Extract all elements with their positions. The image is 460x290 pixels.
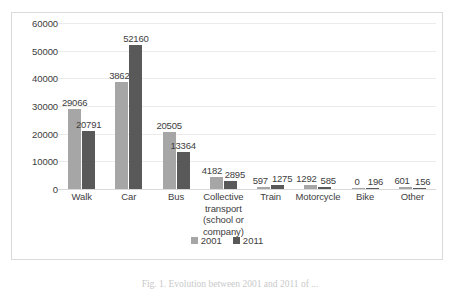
legend-label: 2011 (243, 235, 263, 246)
bar-2001-motorcycle[interactable]: 1292 (304, 185, 317, 189)
bar-value-label: 20791 (76, 119, 101, 130)
bar-2011-collective[interactable]: 2895 (224, 181, 237, 189)
bar-2001-collective[interactable]: 4182 (210, 177, 223, 189)
plot-area: 2906620791386225216020505133644182289559… (58, 23, 436, 189)
bar-group: 2050513364 (153, 23, 200, 189)
bar-value-label: 585 (321, 175, 336, 186)
y-axis-tick-label: 30000 (32, 101, 58, 112)
bar-value-label: 1292 (296, 173, 316, 184)
bar-group: 3862252160 (105, 23, 152, 189)
bar-group: 2906620791 (58, 23, 105, 189)
figure-caption: Fig. 1. Evolution between 2001 and 2011 … (0, 279, 460, 289)
chart-legend: 20012011 (12, 235, 442, 246)
bar-value-label: 0 (354, 176, 359, 187)
y-axis-tick-label: 40000 (32, 73, 58, 84)
bar-2011-train[interactable]: 1275 (271, 185, 284, 189)
bar-value-label: 20505 (156, 120, 181, 131)
legend-swatch-icon (233, 237, 240, 244)
y-axis: 0100002000030000400005000060000 (24, 23, 58, 189)
bar-group: 5971275 (247, 23, 294, 189)
bar-2001-other[interactable]: 601 (399, 187, 412, 189)
bar-value-label: 1275 (272, 173, 292, 184)
bar-group: 41822895 (200, 23, 247, 189)
bar-value-label: 601 (394, 175, 409, 186)
bar-2011-walk[interactable]: 20791 (82, 131, 95, 189)
bar-group: 0196 (342, 23, 389, 189)
legend-item-2011[interactable]: 2011 (233, 235, 263, 246)
y-axis-tick-label: 10000 (32, 156, 58, 167)
bar-group: 601156 (389, 23, 436, 189)
bar-value-label: 2895 (225, 169, 245, 180)
y-axis-tick-label: 20000 (32, 128, 58, 139)
bar-value-label: 156 (415, 176, 430, 187)
bar-2001-car[interactable]: 38622 (115, 82, 128, 189)
bar-2011-bike[interactable]: 196 (366, 188, 379, 189)
y-axis-tick-label: 60000 (32, 18, 58, 29)
bar-value-label: 13364 (170, 140, 195, 151)
bar-groups: 2906620791386225216020505133644182289559… (58, 23, 436, 189)
bar-value-label: 29066 (62, 97, 87, 108)
bar-2001-train[interactable]: 597 (257, 187, 270, 189)
bar-2011-bus[interactable]: 13364 (177, 152, 190, 189)
gridline (58, 189, 436, 190)
legend-swatch-icon (191, 237, 198, 244)
bar-2011-car[interactable]: 52160 (129, 45, 142, 189)
chart-frame: 0100002000030000400005000060000 29066207… (11, 12, 443, 260)
bar-group: 1292585 (294, 23, 341, 189)
bar-2001-bike[interactable]: 0 (352, 188, 365, 189)
bar-value-label: 52160 (123, 33, 148, 44)
y-axis-tick-label: 50000 (32, 45, 58, 56)
bar-value-label: 597 (253, 175, 268, 186)
legend-item-2001[interactable]: 2001 (191, 235, 222, 246)
bar-2011-other[interactable]: 156 (413, 188, 426, 189)
bar-value-label: 4182 (202, 165, 222, 176)
legend-label: 2001 (201, 235, 222, 246)
bar-2011-motorcycle[interactable]: 585 (318, 187, 331, 189)
bar-value-label: 196 (368, 176, 383, 187)
